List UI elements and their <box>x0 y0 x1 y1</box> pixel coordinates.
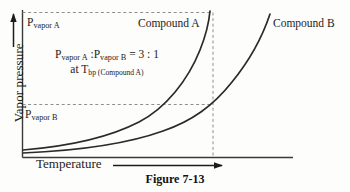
ratio-annotation-line2: at Tbp (Compound A) <box>32 63 182 75</box>
ratio-annotation-line1: Pvapor A :Pvapor B = 3 : 1 <box>55 48 159 60</box>
ratio-equals: = 3 : 1 <box>129 48 159 60</box>
curve-label-compound-b: Compound B <box>273 17 335 29</box>
ratio-sub-b: vapor B <box>100 53 126 62</box>
x-axis-label: Temperature <box>36 157 102 171</box>
tbp-subscript: bp (Compound A) <box>88 68 143 77</box>
vapor-pressure-figure: Vapor pressure Temperature Compound A Co… <box>0 0 350 192</box>
tbp-prefix: at T <box>70 63 88 75</box>
pvapor-b-label: Pvapor B <box>25 108 58 121</box>
curve-compound-a <box>23 11 210 150</box>
ratio-sub-a: vapor A <box>61 53 87 62</box>
figure-caption: Figure 7-13 <box>0 172 350 187</box>
pvapor-b-subscript: vapor B <box>31 113 57 122</box>
ratio-annotation: Pvapor A :Pvapor B = 3 : 1 at Tbp (Compo… <box>32 48 182 75</box>
curve-compound-b <box>23 14 270 153</box>
pvapor-a-label: Pvapor A <box>27 16 60 29</box>
y-axis-label: Vapor pressure <box>12 28 26 138</box>
curve-label-compound-a: Compound A <box>138 17 200 29</box>
pvapor-a-subscript: vapor A <box>33 21 59 30</box>
